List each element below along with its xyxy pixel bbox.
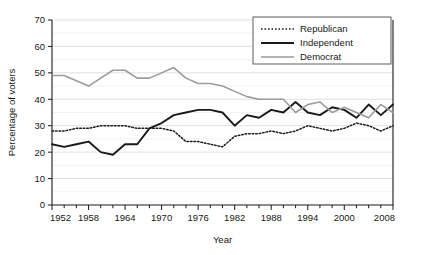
y-tick-label: 70 xyxy=(34,14,45,25)
x-tick-label: 2008 xyxy=(374,212,395,223)
y-axis-title: Percentage of voters xyxy=(6,68,17,156)
x-tick-label: 1964 xyxy=(115,212,136,223)
party-identification-chart: 010203040506070 195219581964197019761982… xyxy=(0,0,428,255)
x-tick-label: 1952 xyxy=(50,212,71,223)
y-tick-label: 40 xyxy=(34,94,45,105)
legend: RepublicanIndependentDemocrat xyxy=(253,17,391,64)
y-tick-labels: 010203040506070 xyxy=(34,14,45,210)
x-tick-label: 1988 xyxy=(261,212,282,223)
y-tick-label: 0 xyxy=(40,199,45,210)
legend-label-democrat: Democrat xyxy=(300,51,342,62)
y-tick-label: 20 xyxy=(34,147,45,158)
x-tick-label: 1994 xyxy=(297,212,318,223)
x-tick-labels: 1952195819641970197619821988199420002008 xyxy=(50,212,395,223)
x-tick-label: 1958 xyxy=(78,212,99,223)
chart-canvas: 010203040506070 195219581964197019761982… xyxy=(0,0,428,255)
x-tick-label: 1970 xyxy=(151,212,172,223)
y-tick-label: 50 xyxy=(34,67,45,78)
legend-label-republican: Republican xyxy=(300,23,348,34)
y-tick-label: 60 xyxy=(34,41,45,52)
series-line-republican xyxy=(52,123,393,147)
legend-label-independent: Independent xyxy=(300,37,353,48)
x-tick-label: 1982 xyxy=(224,212,245,223)
y-tick-label: 10 xyxy=(34,173,45,184)
y-tick-marks xyxy=(48,20,52,205)
x-tick-label: 2000 xyxy=(334,212,355,223)
y-tick-label: 30 xyxy=(34,120,45,131)
x-tick-marks xyxy=(52,205,393,210)
data-series xyxy=(52,68,393,155)
x-tick-label: 1976 xyxy=(188,212,209,223)
x-axis-title: Year xyxy=(213,234,232,245)
